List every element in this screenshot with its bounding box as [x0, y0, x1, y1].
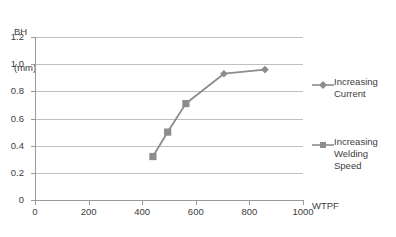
series-line [153, 70, 265, 157]
data-point-square [164, 128, 171, 135]
data-point-diamond [261, 66, 269, 74]
legend-entry-increasing-current: Increasing Current [312, 76, 394, 100]
data-point-square [149, 153, 156, 160]
series-layer [0, 0, 396, 237]
square-marker-icon [312, 137, 334, 149]
chart-container: BH (mm) WTPF 00.20.40.60.81.01.2 0200400… [0, 0, 396, 237]
diamond-marker-icon [312, 77, 334, 89]
legend-label: Increasing Current [334, 76, 394, 100]
data-point-square [182, 100, 189, 107]
legend-label: Increasing Welding Speed [334, 136, 394, 172]
legend-entry-increasing-welding-speed: Increasing Welding Speed [312, 136, 394, 172]
